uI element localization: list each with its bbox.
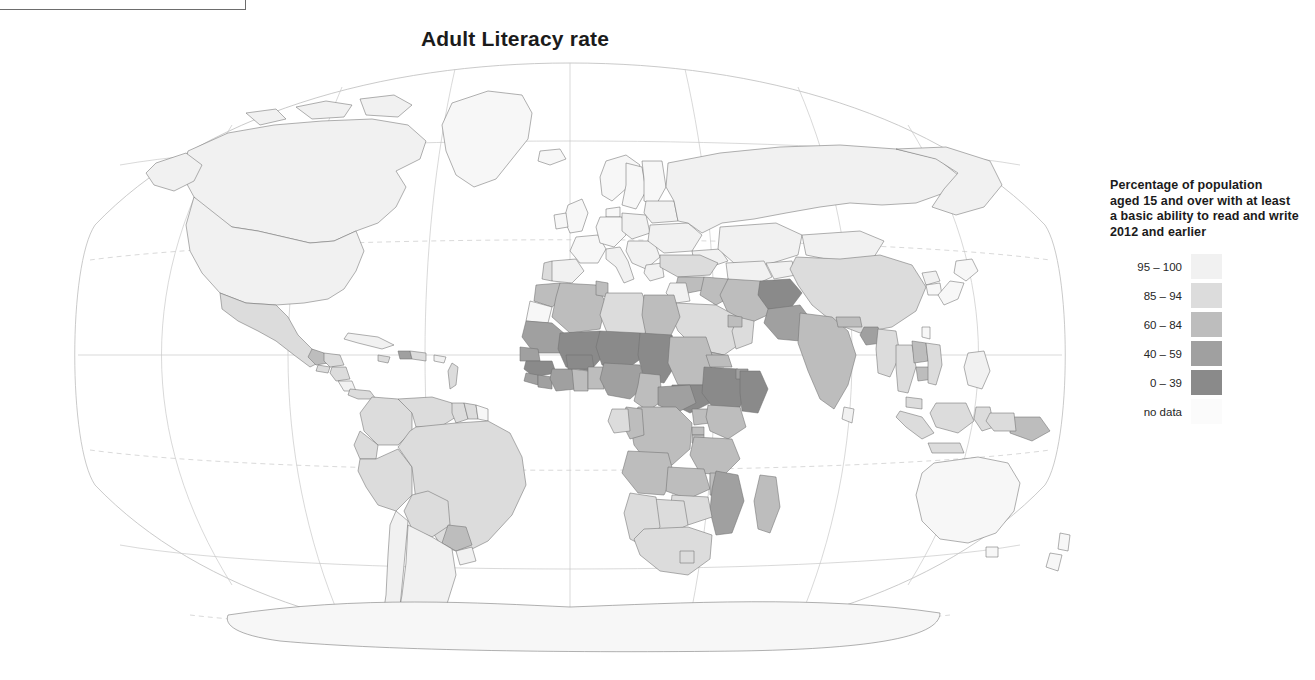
window-chrome-stub bbox=[0, 0, 246, 10]
world-choropleth-map bbox=[60, 55, 1080, 655]
legend-title-line-2: aged 15 and over with at least bbox=[1110, 194, 1306, 210]
region-eritrea[interactable] bbox=[706, 355, 732, 367]
map-legend: Percentage of population aged 15 and ove… bbox=[1110, 178, 1310, 428]
legend-title-line-4: 2012 and earlier bbox=[1110, 225, 1306, 241]
legend-swatch-0-39 bbox=[1191, 370, 1222, 395]
region-denmark[interactable] bbox=[606, 207, 620, 217]
legend-swatch-85-94 bbox=[1191, 283, 1222, 308]
region-haiti[interactable] bbox=[398, 351, 412, 359]
legend-label-no-data: no data bbox=[1110, 406, 1191, 418]
region-lesotho[interactable] bbox=[680, 551, 694, 563]
legend-swatch-40-59 bbox=[1191, 341, 1222, 366]
world-map-container bbox=[60, 55, 1080, 655]
legend-swatch-95-100 bbox=[1191, 254, 1222, 279]
legend-title-line-1: Percentage of population bbox=[1110, 178, 1306, 194]
legend-entry-no-data[interactable]: no data bbox=[1110, 399, 1310, 424]
legend-title-line-3: a basic ability to read and write bbox=[1110, 209, 1306, 225]
legend-label-85-94: 85 – 94 bbox=[1110, 290, 1191, 302]
region-nepal[interactable] bbox=[836, 317, 862, 327]
legend-label-0-39: 0 – 39 bbox=[1110, 377, 1191, 389]
region-ireland[interactable] bbox=[554, 213, 568, 229]
region-belarus-baltics[interactable] bbox=[644, 201, 678, 223]
legend-swatch-60-84 bbox=[1191, 312, 1222, 337]
legend-swatch-no-data bbox=[1191, 399, 1222, 424]
legend-entry-60-84[interactable]: 60 – 84 bbox=[1110, 312, 1310, 337]
region-new-zealand[interactable] bbox=[1058, 533, 1070, 551]
legend-title: Percentage of population aged 15 and ove… bbox=[1110, 178, 1306, 240]
legend-entry-85-94[interactable]: 85 – 94 bbox=[1110, 283, 1310, 308]
legend-entry-40-59[interactable]: 40 – 59 bbox=[1110, 341, 1310, 366]
region-senegal[interactable] bbox=[520, 347, 540, 361]
region-new-zealand-south[interactable] bbox=[1046, 553, 1062, 571]
region-liberia[interactable] bbox=[538, 375, 552, 389]
region-tasmania[interactable] bbox=[986, 547, 998, 557]
region-malaysia[interactable] bbox=[906, 397, 922, 409]
region-ghana[interactable] bbox=[572, 369, 588, 391]
legend-label-95-100: 95 – 100 bbox=[1110, 261, 1191, 273]
legend-entry-0-39[interactable]: 0 – 39 bbox=[1110, 370, 1310, 395]
region-antarctica[interactable] bbox=[227, 602, 940, 652]
page-title: Adult Literacy rate bbox=[0, 27, 1030, 51]
region-rwanda[interactable] bbox=[692, 427, 704, 435]
legend-entry-95-100[interactable]: 95 – 100 bbox=[1110, 254, 1310, 279]
legend-label-60-84: 60 – 84 bbox=[1110, 319, 1191, 331]
region-australia[interactable] bbox=[916, 457, 1020, 543]
region-java[interactable] bbox=[928, 443, 964, 453]
region-taiwan[interactable] bbox=[922, 327, 930, 339]
legend-label-40-59: 40 – 59 bbox=[1110, 348, 1191, 360]
region-uae-qatar-kuwait[interactable] bbox=[728, 315, 742, 327]
region-laos[interactable] bbox=[912, 341, 928, 363]
